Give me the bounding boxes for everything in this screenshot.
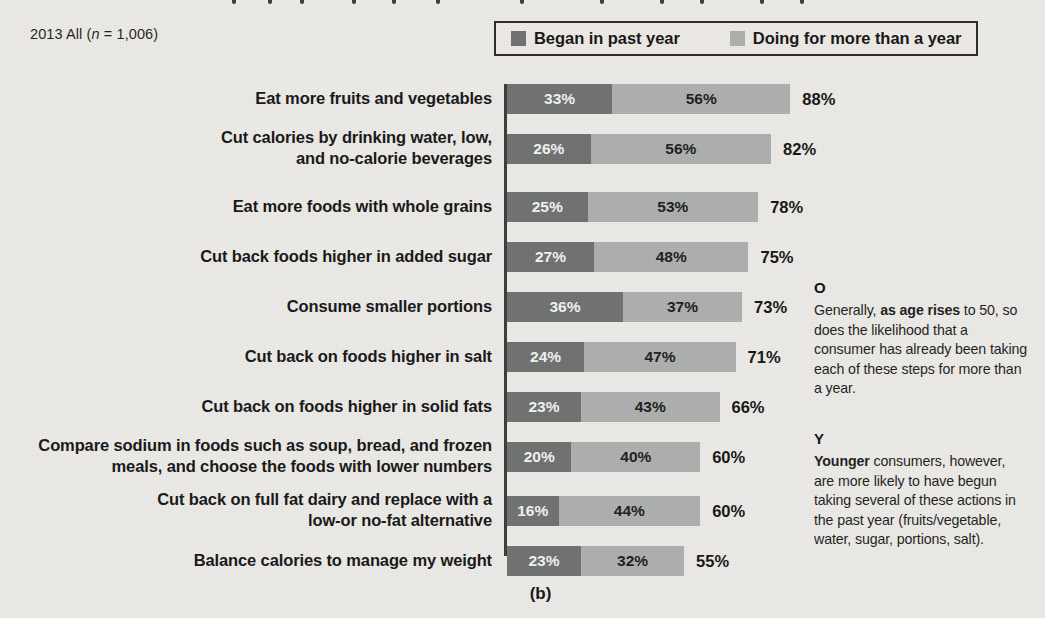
sample-size-note: 2013 All (n = 1,006) [30, 26, 158, 42]
cropped-glyph-fragment [300, 0, 304, 4]
stacked-bar: 16%44% [507, 496, 700, 526]
bar-category-label-line: Cut calories by drinking water, low, [12, 127, 492, 148]
legend-swatch-longer-icon [730, 31, 745, 46]
bar-category-label: Cut back on foods higher in salt [12, 346, 492, 367]
stacked-bar: 23%43% [507, 392, 720, 422]
bar-total-label: 71% [748, 342, 781, 372]
bar-category-label-line: Eat more fruits and vegetables [12, 88, 492, 109]
stacked-bar: 36%37% [507, 292, 742, 322]
bar-category-label-line: Cut back on foods higher in salt [12, 346, 492, 367]
bar-segment-began-in-past-year: 23% [507, 546, 581, 576]
bar-segment-began-in-past-year: 27% [507, 242, 594, 272]
bar-segment-doing-for-more-than-a-year: 32% [581, 546, 684, 576]
cropped-glyph-fragment [520, 0, 524, 4]
annotation-younger-text: Younger consumers, however, are more lik… [814, 453, 1016, 547]
legend-item-doing-for-more-than-a-year: Doing for more than a year [730, 29, 962, 48]
bar-total-label: 60% [712, 442, 745, 472]
bar-category-label-line: Balance calories to manage my weight [12, 550, 492, 571]
annotation-younger-bold: Younger [814, 453, 870, 469]
bar-category-label-line: Cut back foods higher in added sugar [12, 246, 492, 267]
cropped-glyph-fragment [352, 0, 356, 4]
cropped-glyph-fragment [600, 0, 604, 4]
annotation-marker-y: Y [814, 429, 1028, 448]
figure-caption-text: (b) [530, 584, 552, 603]
bar-category-label: Balance calories to manage my weight [12, 550, 492, 571]
bar-total-label: 73% [754, 292, 787, 322]
bar-category-label: Cut back on full fat dairy and replace w… [12, 489, 492, 531]
sample-note-n-italic: n [91, 26, 99, 42]
bar-segment-began-in-past-year: 36% [507, 292, 623, 322]
bar-total-label: 78% [770, 192, 803, 222]
bar-segment-doing-for-more-than-a-year: 56% [612, 84, 790, 114]
bar-category-label-line: Compare sodium in foods such as soup, br… [12, 435, 492, 456]
bar-category-label: Eat more foods with whole grains [12, 196, 492, 217]
cropped-glyph-fragment [800, 0, 804, 4]
bar-total-label: 82% [783, 134, 816, 164]
bar-category-label-line: Cut back on full fat dairy and replace w… [12, 489, 492, 510]
annotation-older-lead: Generally, [814, 302, 880, 318]
annotation-older-text: Generally, as age rises to 50, so does t… [814, 302, 1027, 396]
bar-category-label: Consume smaller portions [12, 296, 492, 317]
top-cropped-title-strip [0, 0, 1045, 7]
bar-segment-doing-for-more-than-a-year: 40% [571, 442, 700, 472]
bar-segment-doing-for-more-than-a-year: 44% [559, 496, 701, 526]
bar-segment-began-in-past-year: 23% [507, 392, 581, 422]
cropped-glyph-fragment [700, 0, 704, 4]
bar-total-label: 75% [761, 242, 794, 272]
cropped-glyph-fragment [760, 0, 764, 4]
stacked-bar: 25%53% [507, 192, 758, 222]
bar-segment-began-in-past-year: 26% [507, 134, 591, 164]
cropped-glyph-fragment [232, 0, 236, 4]
annotation-marker-o: O [814, 278, 1028, 297]
annotation-older-bold: as age rises [880, 302, 960, 318]
bar-category-label-line: and no-calorie beverages [12, 148, 492, 169]
stacked-bar: 27%48% [507, 242, 749, 272]
bar-segment-doing-for-more-than-a-year: 47% [584, 342, 735, 372]
chart-legend: Began in past year Doing for more than a… [494, 21, 978, 56]
cropped-glyph-fragment [268, 0, 272, 4]
bar-segment-began-in-past-year: 16% [507, 496, 559, 526]
legend-item-began-in-past-year: Began in past year [511, 29, 680, 48]
bar-segment-doing-for-more-than-a-year: 37% [623, 292, 742, 322]
bar-category-label: Cut calories by drinking water, low,and … [12, 127, 492, 169]
figure-caption: (b) [0, 584, 1045, 604]
bar-segment-doing-for-more-than-a-year: 43% [581, 392, 719, 422]
bar-category-label: Cut back on foods higher in solid fats [12, 396, 492, 417]
stacked-bar: 24%47% [507, 342, 736, 372]
bar-total-label: 60% [712, 496, 745, 526]
bar-total-label: 66% [732, 392, 765, 422]
sample-note-prefix: 2013 All ( [30, 26, 91, 42]
sample-note-suffix: = 1,006) [100, 26, 159, 42]
legend-label-began: Began in past year [534, 29, 680, 48]
bar-segment-began-in-past-year: 20% [507, 442, 571, 472]
bar-category-label-line: meals, and choose the foods with lower n… [12, 456, 492, 477]
bar-total-label: 55% [696, 546, 729, 576]
bar-category-label: Compare sodium in foods such as soup, br… [12, 435, 492, 477]
annotation-older-consumers: O Generally, as age rises to 50, so does… [814, 278, 1028, 398]
cropped-glyph-fragment [436, 0, 440, 4]
stacked-bar: 20%40% [507, 442, 700, 472]
bar-segment-began-in-past-year: 24% [507, 342, 584, 372]
bar-segment-began-in-past-year: 25% [507, 192, 588, 222]
legend-label-longer: Doing for more than a year [753, 29, 962, 48]
bar-segment-doing-for-more-than-a-year: 53% [588, 192, 759, 222]
annotation-younger-consumers: Y Younger consumers, however, are more l… [814, 429, 1028, 549]
bar-category-label: Eat more fruits and vegetables [12, 88, 492, 109]
stacked-bar: 26%56% [507, 134, 771, 164]
bar-segment-doing-for-more-than-a-year: 48% [594, 242, 749, 272]
bar-segment-doing-for-more-than-a-year: 56% [591, 134, 771, 164]
bar-total-label: 88% [802, 84, 835, 114]
bar-category-label-line: Cut back on foods higher in solid fats [12, 396, 492, 417]
bar-segment-began-in-past-year: 33% [507, 84, 612, 114]
cropped-glyph-fragment [392, 0, 396, 4]
legend-swatch-began-icon [511, 31, 526, 46]
bar-category-label-line: low-or no-fat alternative [12, 510, 492, 531]
bar-category-label-line: Consume smaller portions [12, 296, 492, 317]
bar-category-label-line: Eat more foods with whole grains [12, 196, 492, 217]
stacked-bar: 33%56% [507, 84, 790, 114]
cropped-glyph-fragment [660, 0, 664, 4]
stacked-bar: 23%32% [507, 546, 684, 576]
bar-category-label: Cut back foods higher in added sugar [12, 246, 492, 267]
